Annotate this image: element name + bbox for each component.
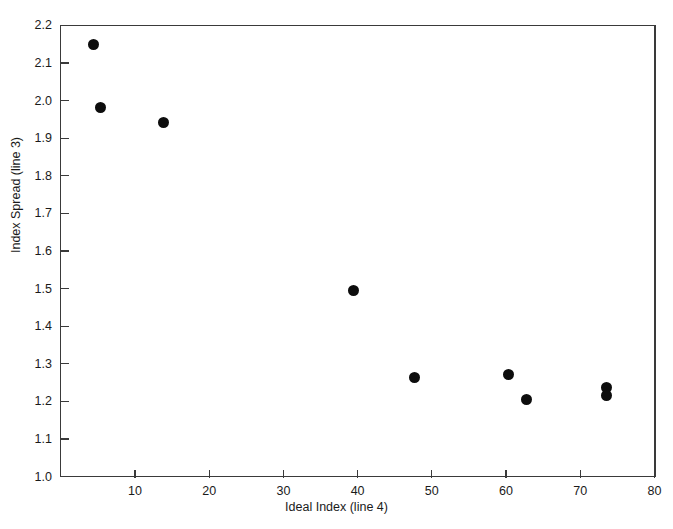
y-tick-mark (61, 175, 69, 176)
y-axis-title: Index Spread (line 3) (9, 95, 23, 295)
y-tick-mark (61, 213, 69, 214)
x-tick-mark (505, 470, 506, 478)
y-tick-label: 1.7 (22, 206, 52, 220)
x-tick-label: 70 (573, 484, 587, 498)
y-tick-mark (61, 438, 69, 439)
x-tick-mark (431, 470, 432, 478)
y-tick-label: 2.2 (22, 18, 52, 32)
right-axis-spine (654, 25, 656, 477)
y-tick-label: 1.6 (22, 244, 52, 258)
y-tick-label: 1.0 (22, 470, 52, 484)
x-tick-label: 40 (351, 484, 365, 498)
x-tick-label: 10 (128, 484, 142, 498)
y-tick-mark (61, 288, 69, 289)
y-tick-label: 2.0 (22, 94, 52, 108)
scatter-plot-figure: 1020304050607080 1.01.11.21.31.41.51.61.… (0, 0, 673, 529)
y-tick-mark (61, 100, 69, 101)
x-tick-label: 80 (647, 484, 661, 498)
y-tick-mark (61, 363, 69, 364)
y-tick-mark (61, 401, 69, 402)
x-tick-label: 50 (425, 484, 439, 498)
x-tick-mark (654, 470, 655, 478)
x-tick-mark (209, 470, 210, 478)
y-tick-mark (61, 138, 69, 139)
x-tick-label: 30 (276, 484, 290, 498)
y-tick-label: 1.4 (22, 319, 52, 333)
x-tick-label: 60 (499, 484, 513, 498)
y-tick-label: 1.8 (22, 169, 52, 183)
y-tick-label: 1.3 (22, 357, 52, 371)
y-tick-label: 1.2 (22, 394, 52, 408)
plot-area (60, 25, 655, 477)
y-tick-mark (61, 326, 69, 327)
y-tick-label: 1.9 (22, 131, 52, 145)
y-tick-label: 1.5 (22, 282, 52, 296)
x-tick-mark (283, 470, 284, 478)
x-tick-mark (357, 470, 358, 478)
x-tick-mark (580, 470, 581, 478)
data-point (158, 117, 169, 128)
data-point (95, 102, 106, 113)
y-tick-mark (61, 250, 69, 251)
x-tick-mark (134, 470, 135, 478)
x-tick-label: 20 (202, 484, 216, 498)
x-axis-title: Ideal Index (line 4) (0, 500, 673, 514)
y-tick-mark (61, 62, 69, 63)
y-tick-label: 1.1 (22, 432, 52, 446)
y-tick-label: 2.1 (22, 56, 52, 70)
